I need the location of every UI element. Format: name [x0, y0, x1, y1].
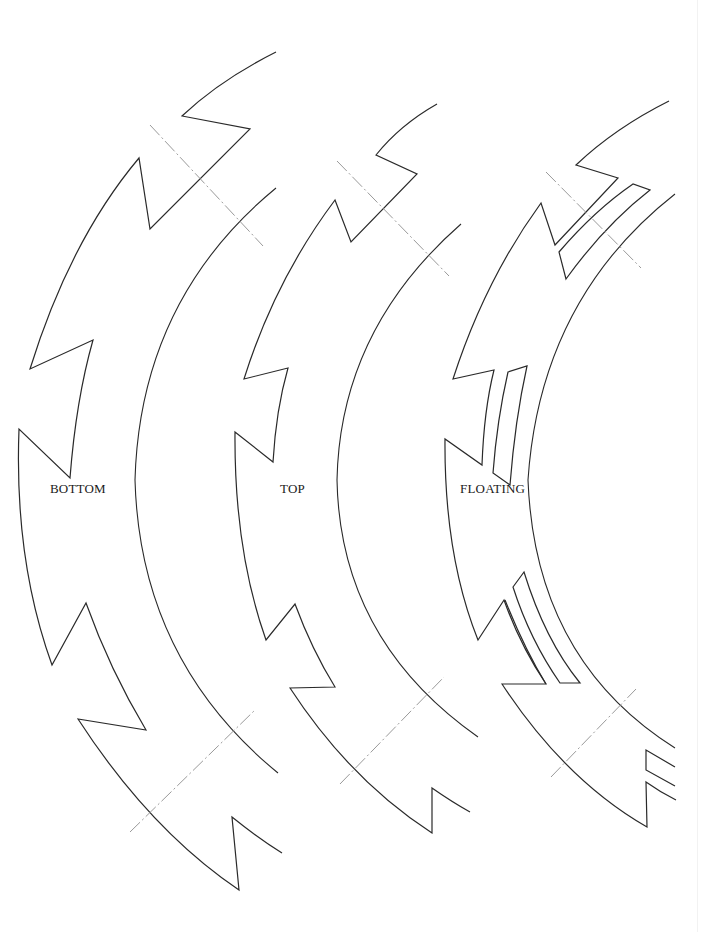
bottom-outer-edge [18, 52, 282, 890]
bottom-inner-edge [135, 188, 278, 773]
piece-bottom [18, 52, 282, 890]
bottom-cut-line-top [150, 125, 263, 246]
page-edge [697, 0, 698, 932]
template-diagram [0, 0, 703, 932]
top-cut-line-bottom [340, 677, 444, 784]
floating-cut-line-bottom [551, 689, 636, 777]
floating-cut-line-top [546, 172, 641, 268]
label-bottom: BOTTOM [50, 481, 106, 497]
floating-outer-edge [445, 101, 676, 827]
floating-tab-right [646, 750, 675, 786]
top-cut-line-top [337, 161, 449, 276]
bottom-cut-line-bottom [130, 710, 255, 832]
label-top: TOP [280, 481, 305, 497]
piece-floating [445, 101, 676, 827]
floating-slot-lower-inner [505, 600, 546, 684]
top-outer-edge [235, 104, 470, 833]
floating-slot-left [493, 366, 527, 485]
piece-top [235, 104, 478, 833]
top-inner-edge [337, 224, 478, 737]
floating-inner-edge [528, 194, 675, 748]
label-floating: FLOATING [460, 481, 525, 497]
